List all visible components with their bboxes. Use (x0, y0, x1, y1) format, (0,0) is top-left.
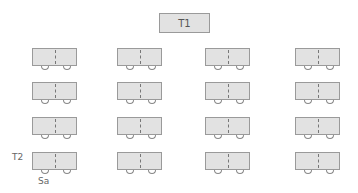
chair-icon (63, 135, 71, 139)
chair-icon (126, 100, 134, 104)
student-desk (32, 48, 77, 66)
chair-icon (326, 170, 334, 174)
chair-icon (63, 170, 71, 174)
chair-icon (304, 170, 312, 174)
student-desk (117, 82, 162, 100)
desk-divider (55, 119, 56, 133)
row-label: T2 (12, 152, 23, 162)
student-desk (117, 117, 162, 135)
desk-divider (318, 119, 319, 133)
chair-icon (326, 100, 334, 104)
chair-icon (214, 100, 222, 104)
chair-icon (214, 66, 222, 70)
desk-divider (318, 50, 319, 64)
desk-divider (140, 119, 141, 133)
chair-icon (148, 170, 156, 174)
chair-icon (41, 170, 49, 174)
chair-icon (63, 66, 71, 70)
chair-icon (126, 66, 134, 70)
chair-icon (236, 135, 244, 139)
chair-icon (41, 135, 49, 139)
chair-icon (41, 66, 49, 70)
chair-icon (304, 66, 312, 70)
desk-divider (228, 50, 229, 64)
student-desk (295, 82, 340, 100)
student-desk (32, 152, 77, 170)
student-desk (32, 82, 77, 100)
desk-divider (55, 84, 56, 98)
desk-divider (318, 154, 319, 168)
seat-label: Sa (38, 176, 49, 186)
chair-icon (126, 135, 134, 139)
student-desk (32, 117, 77, 135)
desk-divider (140, 50, 141, 64)
chair-icon (326, 66, 334, 70)
chair-icon (214, 135, 222, 139)
desk-divider (228, 84, 229, 98)
student-desk (295, 48, 340, 66)
chair-icon (304, 100, 312, 104)
student-desk (295, 117, 340, 135)
chair-icon (236, 170, 244, 174)
desk-divider (140, 154, 141, 168)
student-desk (117, 48, 162, 66)
desk-divider (228, 119, 229, 133)
chair-icon (63, 100, 71, 104)
desk-divider (318, 84, 319, 98)
desk-divider (140, 84, 141, 98)
chair-icon (126, 170, 134, 174)
chair-icon (326, 135, 334, 139)
student-desk (205, 82, 250, 100)
desk-divider (55, 154, 56, 168)
chair-icon (41, 100, 49, 104)
student-desk (295, 152, 340, 170)
chair-icon (236, 100, 244, 104)
chair-icon (304, 135, 312, 139)
student-desk (117, 152, 162, 170)
desk-divider (55, 50, 56, 64)
teacher-desk: T1 (159, 13, 210, 33)
desk-divider (228, 154, 229, 168)
chair-icon (148, 135, 156, 139)
chair-icon (148, 66, 156, 70)
teacher-desk-label: T1 (178, 18, 190, 29)
chair-icon (214, 170, 222, 174)
student-desk (205, 48, 250, 66)
student-desk (205, 152, 250, 170)
student-desk (205, 117, 250, 135)
chair-icon (236, 66, 244, 70)
chair-icon (148, 100, 156, 104)
